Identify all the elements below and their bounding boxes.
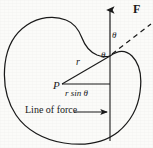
radius-label: r xyxy=(76,57,80,67)
moment-arm-label: r sin θ xyxy=(65,89,88,98)
force-vector-label: F xyxy=(133,3,140,15)
rigid-body-outline xyxy=(4,17,140,144)
diagram-canvas xyxy=(0,0,153,148)
pivot-point-label: P xyxy=(53,80,60,91)
torque-diagram-figure: F θ θ r P r sin θ Line of force xyxy=(0,0,153,148)
line-of-force-label: Line of force xyxy=(25,105,77,115)
radius-line xyxy=(62,56,110,84)
angle-theta-upper-label: θ xyxy=(112,31,116,40)
angle-theta-lower-label: θ xyxy=(101,51,105,60)
dashed-reference-ray xyxy=(112,24,151,54)
